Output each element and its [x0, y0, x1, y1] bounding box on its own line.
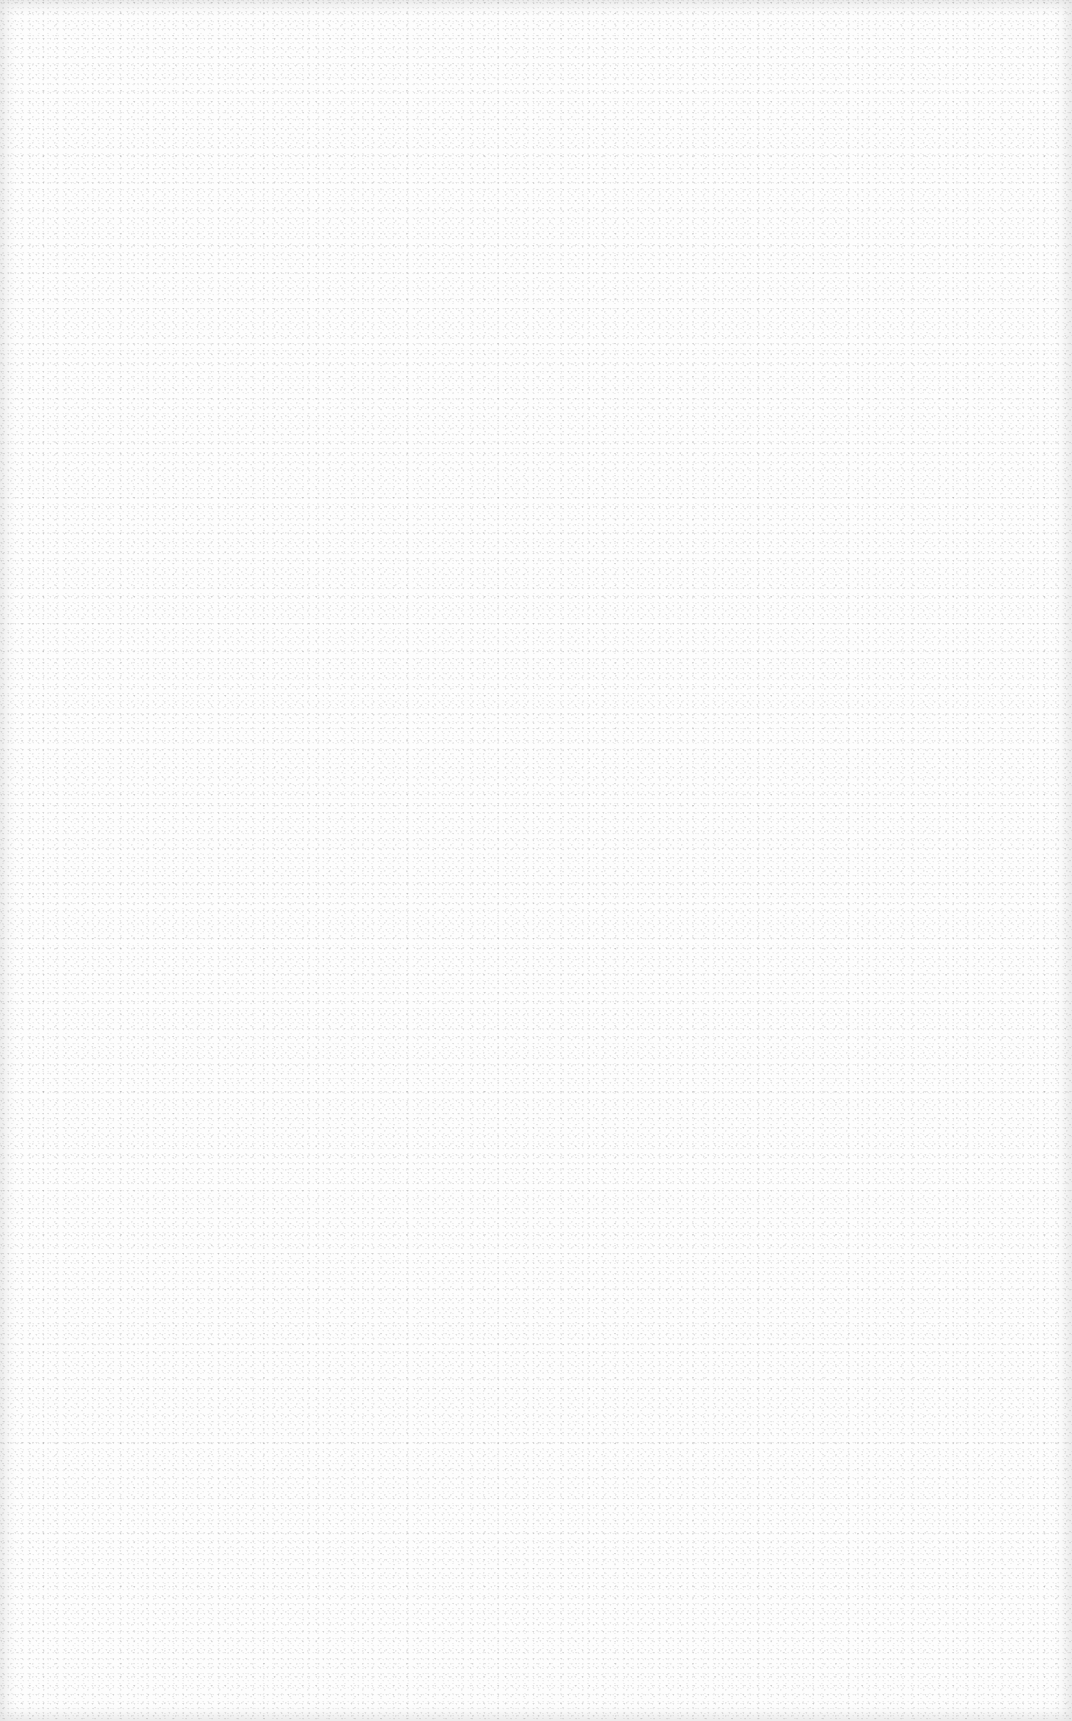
page-edge-shading [0, 0, 1072, 1721]
blank-page [0, 0, 1072, 1721]
